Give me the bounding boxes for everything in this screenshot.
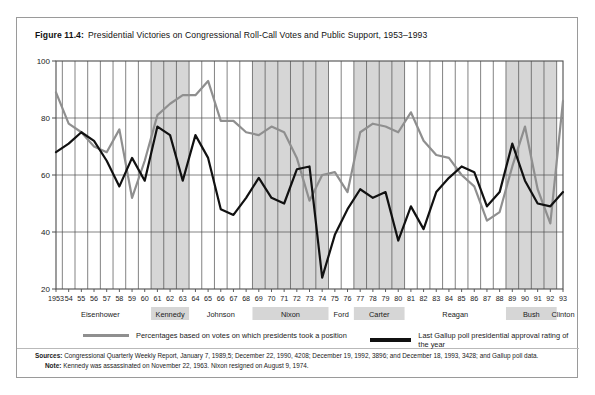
band-label-clinton: Clinton <box>551 310 574 319</box>
x-tick-label: 90 <box>521 294 529 303</box>
x-tick-label: 59 <box>128 294 136 303</box>
x-tick-label: 60 <box>141 294 149 303</box>
band-label-reagan: Reagan <box>442 310 468 319</box>
chart-legend: Percentages based on votes on which pres… <box>17 331 579 347</box>
x-tick-label: 67 <box>229 294 237 303</box>
x-tick-label: 54 <box>65 294 73 303</box>
x-tick-label: 55 <box>77 294 85 303</box>
band-label-carter: Carter <box>369 310 390 319</box>
figure-notes: Sources: Congressional Quarterly Weekly … <box>35 351 569 371</box>
legend-item-votes: Percentages based on votes on which pres… <box>83 331 347 340</box>
x-tick-label: 80 <box>394 294 402 303</box>
band-label-ford: Ford <box>334 310 349 319</box>
band-label-nixon: Nixon <box>281 310 300 319</box>
x-tick-label: 68 <box>242 294 250 303</box>
legend-label-votes: Percentages based on votes on which pres… <box>136 331 347 340</box>
x-tick-label: 66 <box>217 294 225 303</box>
x-tick-label: 78 <box>369 294 377 303</box>
x-tick-label: 76 <box>344 294 352 303</box>
x-tick-label: 91 <box>534 294 542 303</box>
sources-label: Sources: <box>35 352 62 359</box>
band-label-kennedy: Kennedy <box>155 310 184 319</box>
legend-swatch-approval-icon <box>370 338 411 342</box>
x-tick-label: 75 <box>331 294 339 303</box>
x-tick-label: 58 <box>115 294 123 303</box>
x-tick-label: 70 <box>267 294 275 303</box>
line-chart: KennedyNixonCarterBushEisenhowerJohnsonF… <box>17 18 579 331</box>
y-tick-label: 60 <box>41 171 50 180</box>
x-tick-label: 1953 <box>48 294 64 303</box>
x-tick-label: 62 <box>166 294 174 303</box>
x-tick-label: 88 <box>496 294 504 303</box>
x-tick-label: 74 <box>318 294 326 303</box>
legend-item-approval: Last Gallup poll presidential approval r… <box>370 331 579 349</box>
x-tick-label: 57 <box>103 294 111 303</box>
x-tick-label: 83 <box>432 294 440 303</box>
band-label-bush: Bush <box>523 310 540 319</box>
x-tick-label: 93 <box>559 294 567 303</box>
x-tick-label: 86 <box>470 294 478 303</box>
x-tick-label: 65 <box>204 294 212 303</box>
note-label: Note: <box>45 362 61 369</box>
x-tick-label: 72 <box>293 294 301 303</box>
note-text: Kennedy was assassinated on November 22,… <box>63 362 309 369</box>
x-tick-label: 87 <box>483 294 491 303</box>
x-tick-label: 64 <box>191 294 199 303</box>
x-tick-label: 85 <box>458 294 466 303</box>
x-tick-label: 92 <box>546 294 554 303</box>
x-tick-label: 77 <box>356 294 364 303</box>
y-tick-label: 40 <box>41 228 50 237</box>
band-label-johnson: Johnson <box>207 310 235 319</box>
x-tick-label: 61 <box>153 294 161 303</box>
x-tick-label: 63 <box>179 294 187 303</box>
x-tick-label: 73 <box>306 294 314 303</box>
legend-swatch-votes-icon <box>83 334 129 337</box>
y-tick-label: 100 <box>37 57 51 66</box>
screenshot-page: Figure 11.4:Presidential Victories on Co… <box>0 0 595 395</box>
sources-text: Congressional Quarterly Weekly Report, J… <box>64 352 538 359</box>
x-tick-label: 81 <box>407 294 415 303</box>
x-tick-label: 56 <box>90 294 98 303</box>
x-tick-label: 79 <box>382 294 390 303</box>
x-tick-label: 84 <box>445 294 453 303</box>
legend-label-approval: Last Gallup poll presidential approval r… <box>418 331 579 349</box>
x-tick-label: 82 <box>420 294 428 303</box>
y-tick-label: 80 <box>41 114 50 123</box>
x-tick-label: 69 <box>255 294 263 303</box>
x-tick-label: 71 <box>280 294 288 303</box>
note-line: Note: Kennedy was assassinated on Novemb… <box>45 361 569 371</box>
figure-container: Figure 11.4:Presidential Victories on Co… <box>16 17 578 378</box>
x-tick-label: 89 <box>508 294 516 303</box>
chart-area: KennedyNixonCarterBushEisenhowerJohnsonF… <box>17 18 579 379</box>
y-tick-label: 20 <box>41 285 50 294</box>
band-label-eisenhower: Eisenhower <box>81 310 120 319</box>
sources-line: Sources: Congressional Quarterly Weekly … <box>35 351 569 361</box>
